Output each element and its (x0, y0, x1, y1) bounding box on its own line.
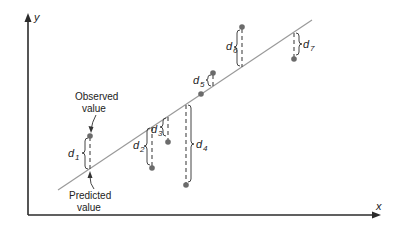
observed-point (291, 56, 297, 62)
svg-text:d: d (196, 138, 203, 150)
svg-text:d: d (68, 147, 75, 159)
svg-text:value: value (82, 103, 106, 114)
svg-text:2: 2 (139, 145, 145, 154)
observed-point (210, 70, 216, 76)
svg-text:5: 5 (200, 80, 205, 89)
svg-text:Observed: Observed (75, 91, 118, 102)
x-axis-arrow-icon (372, 212, 381, 219)
svg-text:3: 3 (158, 129, 163, 138)
observed-point (87, 133, 93, 139)
svg-text:d: d (193, 74, 200, 86)
svg-text:d: d (303, 38, 310, 50)
y-axis: y (25, 11, 42, 215)
svg-text:6: 6 (233, 46, 238, 55)
arrow-up-icon (88, 171, 93, 178)
svg-text:d: d (151, 123, 158, 135)
data-point-on-line (198, 91, 204, 97)
residual-d1: d 1 (68, 133, 93, 169)
residual-diagram: y x d 1 Observed value Predicted value d… (0, 0, 399, 229)
residual-d4: d 4 (183, 105, 208, 188)
y-axis-label: y (33, 11, 41, 23)
svg-text:Predicted: Predicted (69, 190, 111, 201)
observed-point (149, 165, 155, 171)
svg-text:1: 1 (75, 153, 79, 162)
observed-point (239, 24, 245, 30)
residual-d6: d 6 (226, 24, 245, 67)
predicted-value-annotation: Predicted value (69, 171, 111, 213)
observed-point (183, 182, 189, 188)
svg-text:4: 4 (203, 144, 208, 153)
observed-point (165, 139, 171, 145)
svg-text:value: value (77, 202, 101, 213)
arrow-down-icon (89, 126, 94, 133)
x-axis-label: x (375, 200, 382, 212)
observed-value-annotation: Observed value (75, 91, 118, 133)
y-axis-arrow-icon (25, 13, 32, 22)
svg-text:7: 7 (310, 44, 315, 53)
svg-text:d: d (226, 40, 233, 52)
svg-text:d: d (133, 139, 140, 151)
residual-d7: d 7 (291, 33, 315, 62)
